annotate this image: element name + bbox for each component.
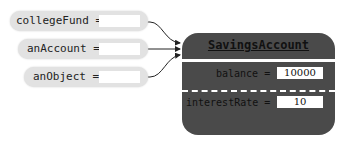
class-name: SavingsAccount: [182, 38, 335, 52]
reference-label: anObject =: [33, 70, 99, 83]
reference-anAccount: anAccount =: [18, 39, 148, 59]
field-value-interestRate: 10: [277, 96, 323, 108]
reference-value-box: [99, 71, 140, 83]
field-value-balance: 10000: [277, 67, 323, 79]
field-divider: [182, 90, 335, 92]
reference-collegeFund: collegeFund =: [10, 11, 148, 31]
reference-anObject: anObject =: [24, 67, 148, 87]
reference-label: collegeFund =: [16, 14, 102, 27]
field-label-interestRate: interestRate =: [186, 97, 270, 108]
field-label-balance: balance =: [216, 68, 270, 79]
reference-label: anAccount =: [27, 42, 100, 55]
header-divider: [182, 59, 335, 62]
savings-account-object: SavingsAccount balance = 10000 interestR…: [182, 33, 335, 135]
reference-value-box: [99, 43, 140, 55]
reference-value-box: [99, 15, 140, 27]
